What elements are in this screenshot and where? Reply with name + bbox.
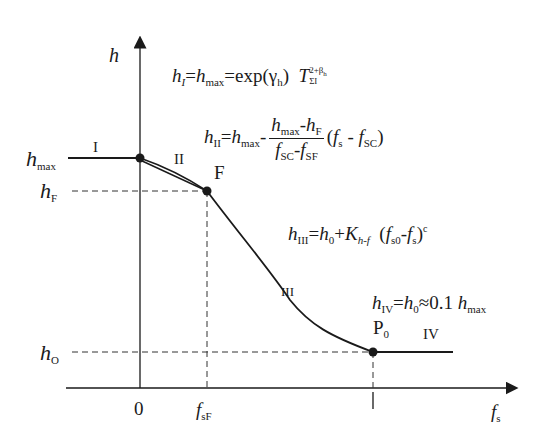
point-hmax-start xyxy=(136,154,145,163)
point-F-label: F xyxy=(214,163,225,182)
h-0-label: hO xyxy=(40,342,59,366)
h-F-label: hF xyxy=(40,180,57,204)
point-P0 xyxy=(369,348,378,357)
origin-label: 0 xyxy=(134,399,144,418)
x-axis-label: fs xyxy=(491,402,501,424)
h-vs-fs-diagram: h fs 0 hmax hF hO fsF I II III IV F P0 h… xyxy=(0,0,539,445)
y-axis-label: h xyxy=(109,45,119,65)
f-sF-label: fsF xyxy=(196,400,212,422)
region-label-I: I xyxy=(93,140,98,155)
region-label-III: III xyxy=(281,285,294,298)
region-label-II: II xyxy=(174,152,184,167)
equation-region-III: hIII=h0+Kh-f (fs0-fs)c xyxy=(288,224,427,246)
equation-region-I: hI=hmax=exp(γh) T2+βhΣΙ xyxy=(172,66,327,88)
equation-region-IV: hIV=h0≈0.1 hmax xyxy=(372,293,486,315)
point-P0-label: P0 xyxy=(373,318,389,340)
curve-region-III xyxy=(207,191,373,352)
point-F xyxy=(203,187,212,196)
h-max-label: hmax xyxy=(26,148,56,172)
region-label-IV: IV xyxy=(423,327,439,342)
equation-region-II: hII=hmax-hmax-hFfSC-fSF(fs - fSC) xyxy=(204,115,384,162)
fraction: hmax-hFfSC-fSF xyxy=(269,115,323,162)
